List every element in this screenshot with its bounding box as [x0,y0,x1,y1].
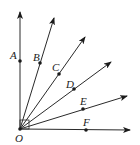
label-E: E [79,95,87,107]
label-A: A [9,49,17,61]
ray-OE [20,96,127,129]
point-F [84,128,88,132]
point-O [18,127,22,131]
label-O: O [15,132,23,144]
label-B: B [33,51,40,63]
ray-OC [20,37,85,129]
point-E [81,107,85,111]
ray-OB [20,18,54,129]
label-F: F [82,116,90,128]
point-A [18,59,22,63]
ray-OD [20,62,111,129]
ray-OF [20,129,130,130]
rays-diagram: O A B C D E F [0,0,140,145]
label-C: C [52,61,60,73]
label-D: D [65,78,74,90]
